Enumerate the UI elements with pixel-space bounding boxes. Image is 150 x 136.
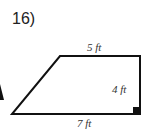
height-label: 4 ft	[112, 84, 126, 95]
trapezoid-figure	[0, 0, 150, 136]
right-angle-marker	[133, 107, 140, 114]
top-side-label: 5 ft	[87, 42, 101, 53]
bottom-side-label: 7 ft	[77, 118, 91, 129]
neighbor-figure-fragment	[0, 84, 4, 100]
